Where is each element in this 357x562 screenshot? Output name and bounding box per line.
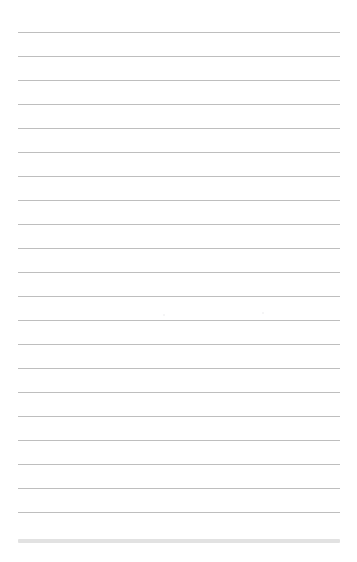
rule-line <box>18 272 340 273</box>
rule-line <box>18 176 340 177</box>
rule-line <box>18 512 340 513</box>
rule-line <box>18 344 340 345</box>
rule-line <box>18 416 340 417</box>
rule-line <box>18 296 340 297</box>
rule-line <box>18 320 340 321</box>
rule-line <box>18 224 340 225</box>
scan-speck <box>163 314 165 316</box>
rule-line <box>18 392 340 393</box>
scan-speck <box>262 312 264 314</box>
footer-band <box>18 539 340 543</box>
ruled-writing-area[interactable] <box>0 0 357 562</box>
rule-line <box>18 464 340 465</box>
rule-line <box>18 152 340 153</box>
rule-line <box>18 248 340 249</box>
rule-line <box>18 128 340 129</box>
scanned-page <box>0 0 357 562</box>
rule-line <box>18 104 340 105</box>
rule-line <box>18 56 340 57</box>
rule-line <box>18 488 340 489</box>
rule-line <box>18 32 340 33</box>
rule-line <box>18 368 340 369</box>
rule-line <box>18 200 340 201</box>
rule-line <box>18 440 340 441</box>
rule-line <box>18 80 340 81</box>
